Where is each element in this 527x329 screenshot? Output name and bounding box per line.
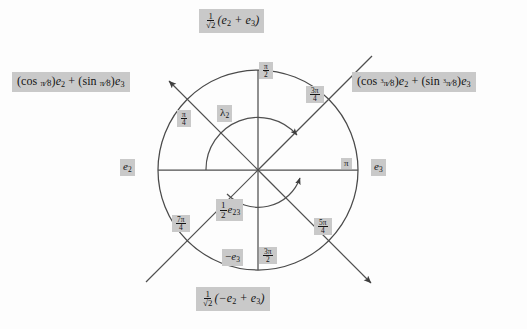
angle-tick-7pi-over-4: 7π4 — [172, 215, 190, 232]
one-over-sqrt-two: 1√2 — [204, 12, 217, 30]
angle-tick-pi-over-2: π2 — [259, 62, 273, 79]
label-basis-e2: e2 — [120, 159, 135, 176]
diagram-canvas: 1√2 (e2 + e3) (cos π⁄8)e2 + (sin π⁄8)e3 … — [0, 0, 527, 329]
label-lambda-2: λ2 — [217, 105, 232, 122]
angle-tick-3pi-over-2: 3π2 — [259, 247, 277, 264]
one-over-sqrt-two-2: 1√2 — [201, 290, 214, 308]
angle-tick-pi-over-4: π4 — [177, 110, 191, 127]
label-bottom-expression: 1√2 (−e2 + e3) — [196, 287, 270, 311]
angle-tick-pi: π — [341, 158, 352, 169]
angle-tick-5pi-over-4: 5π4 — [314, 218, 332, 235]
label-top-expression: 1√2 (e2 + e3) — [199, 9, 264, 33]
label-basis-neg-e3: −e3 — [222, 249, 243, 266]
label-half-e23: 12e23 — [216, 199, 243, 221]
diagram-geometry — [0, 0, 527, 329]
angle-tick-3pi-over-4: 3π4 — [306, 86, 324, 103]
label-basis-e3: e3 — [371, 159, 386, 176]
upper-arc-arrow — [206, 117, 297, 170]
label-right-expression: (cos 3π⁄8)e2 + (sin 3π⁄8)e3 — [352, 72, 476, 92]
label-left-expression: (cos π⁄8)e2 + (sin π⁄8)e3 — [12, 72, 130, 92]
